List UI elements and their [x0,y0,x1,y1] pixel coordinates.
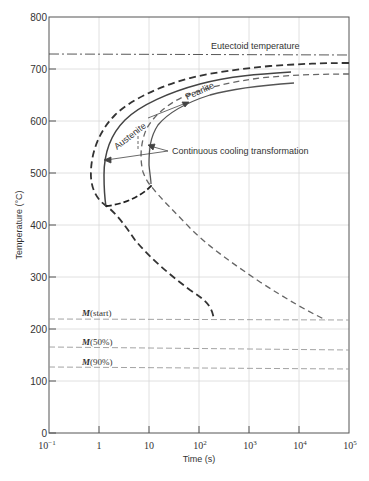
y-tick-labels: 0 100 200 300 400 500 600 700 800 [30,12,47,439]
cct-diagram: 0 100 200 300 400 500 600 700 800 10−1 1… [0,0,369,481]
x-tick-label: 102 [193,439,207,451]
x-tick-label: 104 [293,439,307,451]
y-tick-label: 800 [30,12,47,23]
x-tick-labels: 10−1 1 10 102 103 104 105 [38,439,357,451]
x-axis-title: Time (s) [183,454,216,464]
bainite-boundary-curve [106,185,152,206]
y-tick-label: 500 [30,168,47,179]
y-axis-title: Temperature (°C) [14,190,24,259]
m-start-label: M(start) [81,308,112,318]
eutectoid-line [49,54,349,55]
y-ticks [49,69,56,433]
y-tick-label: 700 [30,64,47,75]
y-tick-label: 400 [30,220,47,231]
y-tick-label: 200 [30,324,47,335]
x-ticks [99,426,299,433]
eutectoid-label: Eutectoid temperature [211,41,300,51]
cct-finish-curve [141,74,349,320]
cct-start-curve [91,63,349,320]
transformation-finish-curve [149,83,294,184]
x-tick-label: 10−1 [38,439,56,451]
x-tick-label: 105 [343,439,357,451]
x-tick-label: 1 [97,440,102,451]
grid [49,17,349,433]
m-50-label: M(50%) [81,337,113,347]
m-90-label: M(90%) [81,357,113,367]
y-tick-label: 0 [41,428,47,439]
y-tick-label: 300 [30,272,47,283]
y-tick-label: 100 [30,376,47,387]
x-tick-label: 103 [243,439,257,451]
cct-label: Continuous cooling transformation [172,146,309,156]
x-tick-label: 10 [144,440,154,451]
austenite-label: Austenite [112,121,148,152]
y-tick-label: 600 [30,116,47,127]
